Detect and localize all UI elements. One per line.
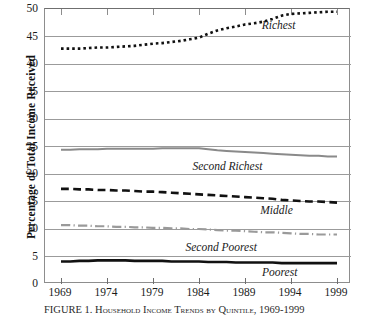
series-line-middle <box>61 189 337 203</box>
y-tick-label: 20 <box>0 167 38 179</box>
y-tick-label: 10 <box>0 222 38 234</box>
series-lines <box>61 12 337 263</box>
y-tick-label: 35 <box>0 85 38 97</box>
y-tick-label: 50 <box>0 2 38 14</box>
series-line-second-richest <box>61 148 337 156</box>
series-line-poorest <box>61 260 337 263</box>
x-tick-label: 1994 <box>267 286 313 298</box>
series-label-second-richest: Second Richest <box>192 160 262 172</box>
y-tick-label: 15 <box>0 195 38 207</box>
figure-caption: FIGURE 1. Household Income Trends by Qui… <box>44 304 360 316</box>
x-tick-label: 1984 <box>175 286 221 298</box>
series-label-middle: Middle <box>260 204 293 216</box>
y-tick-label: 30 <box>0 112 38 124</box>
x-tick-label: 1989 <box>221 286 267 298</box>
x-tick-label: 1999 <box>313 286 359 298</box>
y-tick-label: 45 <box>0 30 38 42</box>
y-tick-label: 40 <box>0 57 38 69</box>
gridlines <box>45 37 351 257</box>
series-label-richest: Richest <box>262 19 296 31</box>
x-tick-label: 1979 <box>129 286 175 298</box>
x-tick-label: 1969 <box>37 286 83 298</box>
y-tick-label: 25 <box>0 140 38 152</box>
y-tick-label: 0 <box>0 277 38 289</box>
series-line-second-poorest <box>61 225 337 234</box>
series-label-second-poorest: Second Poorest <box>185 241 256 253</box>
series-label-poorest: Poorest <box>262 266 297 278</box>
y-tick-label: 5 <box>0 250 38 262</box>
x-tick-label: 1974 <box>83 286 129 298</box>
